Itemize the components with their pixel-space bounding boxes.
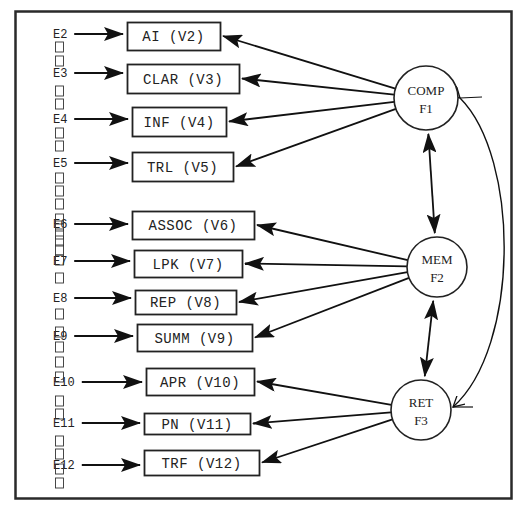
missing-glyph-box: [56, 141, 64, 151]
error-label: E8: [53, 292, 67, 306]
loading-arrow-v7: [245, 264, 407, 267]
factor-label: F3: [414, 413, 428, 428]
missing-glyph-box: [56, 357, 64, 367]
missing-glyph-box: [56, 309, 64, 319]
error-e10: E10: [53, 376, 142, 390]
missing-glyph-box: [56, 186, 64, 196]
missing-glyph-box: [56, 236, 64, 246]
missing-glyph-box: [56, 86, 64, 96]
loading-arrow-v12: [262, 419, 393, 462]
factor-comp: COMPF1: [394, 66, 458, 130]
error-e2: E2: [53, 28, 123, 42]
missing-glyph-box: [56, 173, 64, 183]
arrow-tick: [460, 97, 482, 98]
variable-label: ASSOC (V6): [148, 218, 237, 234]
variable-label: PN (V11): [161, 417, 232, 433]
variable-label: LPK (V7): [152, 257, 223, 273]
covariance-comp-mem: [428, 134, 434, 233]
variable-label: TRF (V12): [161, 456, 241, 472]
factor-label: F1: [419, 101, 433, 116]
variable-v5: TRL (V5): [133, 153, 234, 182]
missing-glyph-box: [56, 478, 64, 488]
missing-glyph-box: [56, 42, 64, 52]
cfa-path-diagram: E2E3E4E5E6E7E8E9E10E11E12 AI (V2)CLAR (V…: [0, 0, 529, 505]
factor-name: COMP: [408, 83, 445, 98]
error-e5: E5: [53, 157, 128, 171]
variable-v11: PN (V11): [145, 414, 251, 435]
variable-label: INF (V4): [143, 115, 214, 131]
missing-glyph-box: [56, 199, 64, 209]
variable-label: CLAR (V3): [143, 72, 223, 88]
error-terms: E2E3E4E5E6E7E8E9E10E11E12: [53, 28, 142, 473]
variable-label: SUMM (V9): [154, 331, 234, 347]
error-e6: E6: [53, 218, 128, 232]
loading-arrow-v11: [253, 412, 391, 423]
factor-name: MEM: [421, 252, 453, 267]
factor-mem: MEMF2: [407, 237, 467, 297]
variable-v12: TRF (V12): [145, 451, 260, 476]
variable-label: REP (V8): [150, 295, 221, 311]
variable-v3: CLAR (V3): [128, 65, 240, 94]
error-e3: E3: [53, 67, 123, 81]
loading-arrow-v6: [257, 225, 408, 260]
loading-arrow-v2: [223, 36, 395, 89]
factor-circle: [407, 237, 467, 297]
variable-label: TRL (V5): [147, 160, 218, 176]
variable-v8: REP (V8): [136, 291, 237, 315]
factor-loadings: [223, 36, 409, 463]
variable-v10: APR (V10): [147, 369, 255, 396]
loading-arrow-v9: [255, 278, 409, 338]
factor-circle: [394, 66, 458, 130]
covariance-mem-ret: [425, 301, 433, 376]
error-label: E2: [53, 28, 67, 42]
error-label: E5: [53, 157, 67, 171]
missing-glyph-box: [56, 436, 64, 446]
observed-variables: AI (V2)CLAR (V3)INF (V4)TRL (V5)ASSOC (V…: [128, 23, 260, 476]
variable-v4: INF (V4): [133, 108, 227, 137]
latent-factors: COMPF1MEMF2RETF3: [391, 66, 467, 440]
variable-v9: SUMM (V9): [138, 325, 253, 352]
variable-v7: LPK (V7): [135, 251, 243, 278]
factor-name: RET: [409, 395, 434, 410]
missing-glyph-box: [56, 128, 64, 138]
variable-label: AI (V2): [142, 29, 204, 45]
missing-glyph-box: [56, 449, 64, 459]
error-label: E4: [53, 113, 67, 127]
missing-glyph-box: [56, 396, 64, 406]
missing-glyph-box: [56, 273, 64, 283]
missing-glyph-box: [56, 245, 64, 255]
variable-v6: ASSOC (V6): [133, 212, 255, 240]
variable-label: APR (V10): [160, 375, 240, 391]
factor-label: F2: [430, 270, 444, 285]
missing-glyph-box: [56, 99, 64, 109]
factor-circle: [391, 380, 451, 440]
error-e7: E7: [53, 255, 130, 269]
factor-ret: RETF3: [391, 380, 451, 440]
loading-arrow-v8: [239, 272, 407, 302]
error-e9: E9: [53, 330, 133, 344]
error-e12: E12: [53, 459, 140, 473]
error-label: E3: [53, 67, 67, 81]
loading-arrow-v10: [257, 382, 391, 405]
missing-glyph-box: [56, 56, 64, 66]
error-e11: E11: [53, 417, 140, 431]
error-e8: E8: [53, 292, 131, 306]
error-e4: E4: [53, 113, 128, 127]
variable-v2: AI (V2): [128, 23, 221, 51]
